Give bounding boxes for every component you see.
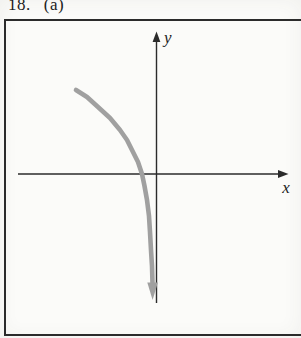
exercise-part-label: (a) xyxy=(44,0,64,14)
curve-path xyxy=(76,90,153,283)
exercise-label: 18.(a) xyxy=(8,0,64,15)
x-axis-arrowhead xyxy=(278,170,289,178)
exercise-number: 18. xyxy=(8,0,31,14)
y-axis-arrowhead xyxy=(153,32,161,43)
x-axis-label: x xyxy=(281,178,290,197)
graph-canvas: y x xyxy=(0,0,301,338)
figure-page: 18.(a) y x xyxy=(0,0,301,338)
y-axis-label: y xyxy=(162,28,172,47)
